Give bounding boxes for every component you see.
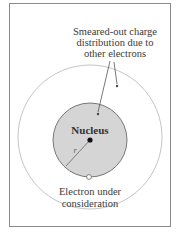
nucleus-dot [87, 137, 92, 142]
electron-label-line-1: Electron under [40, 186, 140, 198]
radius-label: r [71, 147, 79, 155]
smeared-label-line-2: distribution due to [55, 38, 175, 49]
leader-line-outer [114, 62, 117, 84]
nucleus-label: Nucleus [65, 125, 115, 136]
leader-dot-inner [97, 113, 99, 115]
smeared-label-line-3: other electrons [55, 49, 175, 60]
electron-label-line-2: consideration [40, 198, 140, 210]
electron-marker [87, 175, 92, 180]
electron-label: Electron under consideration [40, 186, 140, 209]
smeared-charge-label: Smeared-out charge distribution due to o… [55, 27, 175, 59]
leader-dot-outer [116, 85, 118, 87]
leader-line-inner [98, 61, 110, 112]
